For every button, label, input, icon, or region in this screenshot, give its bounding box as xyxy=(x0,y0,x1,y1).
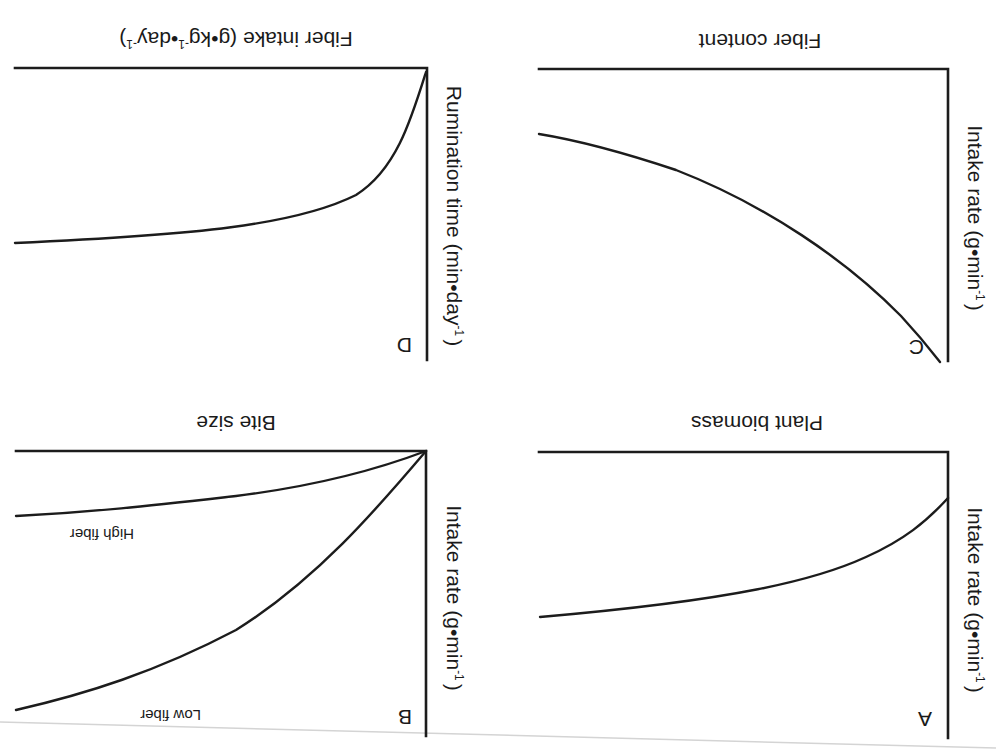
panel-c-xlabel: Fiber content xyxy=(699,30,822,53)
panel-b-xlabel: Bite size xyxy=(196,412,275,435)
panel-b-letter: B xyxy=(398,706,412,729)
panel-d-axes xyxy=(15,68,427,360)
panel-d-curve xyxy=(15,72,426,243)
figure-canvas: A Plant biomass Intake rate (g•min-1) Hi… xyxy=(0,0,996,750)
panel-d-ylabel: Rumination time (min•day-1) xyxy=(443,86,466,346)
panel-c-letter: C xyxy=(909,336,924,359)
paper-edge-line xyxy=(0,722,996,748)
panel-c: C Fiber content Intake rate (g•min-1) xyxy=(539,30,987,362)
panel-c-ylabel: Intake rate (g•min-1) xyxy=(964,125,987,311)
panel-a-axes xyxy=(539,452,948,738)
panel-b-curve-low-fiber xyxy=(16,451,426,710)
panel-a-curve xyxy=(540,498,948,617)
panel-d-xlabel: Fiber intake (g•kg-1•day-1) xyxy=(119,28,352,51)
panel-b-curve-high-fiber xyxy=(16,451,426,516)
panel-c-axes xyxy=(539,69,948,361)
panel-a-ylabel: Intake rate (g•min-1) xyxy=(964,507,987,693)
panel-b: High fiber Low fiber B Bite size Intake … xyxy=(16,412,466,736)
panel-b-label-high-fiber: High fiber xyxy=(70,526,134,543)
panel-b-ylabel: Intake rate (g•min-1) xyxy=(443,505,466,691)
panel-a-xlabel: Plant biomass xyxy=(691,412,823,435)
panel-b-label-low-fiber: Low fiber xyxy=(140,707,201,724)
panel-a-letter: A xyxy=(918,708,932,731)
panel-c-curve xyxy=(539,134,940,362)
panel-d-letter: D xyxy=(397,334,412,357)
panel-a: A Plant biomass Intake rate (g•min-1) xyxy=(539,412,987,738)
figure-rotated-180: A Plant biomass Intake rate (g•min-1) Hi… xyxy=(0,0,996,750)
panel-d: D Fiber intake (g•kg-1•day-1) Rumination… xyxy=(15,28,466,360)
